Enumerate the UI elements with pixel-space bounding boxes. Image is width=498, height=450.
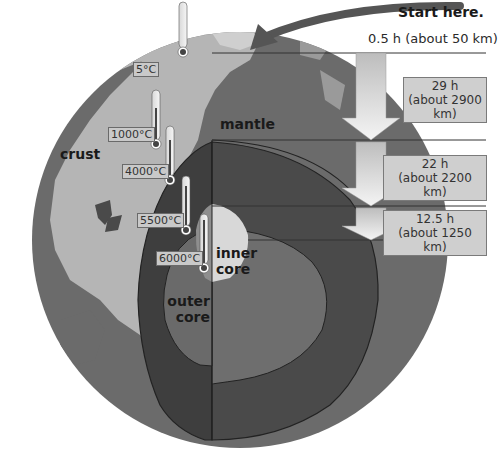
depth-leg-4-box: 12.5 h (about 1250 km) (383, 210, 487, 256)
depth-leg-2-time: 29 h (407, 79, 483, 93)
inner-core-label: inner core (216, 245, 256, 277)
temperature-label-5500: 5500°C (137, 213, 184, 228)
depth-leg-3-time: 22 h (387, 157, 483, 171)
depth-leg-1-label: 0.5 h (about 50 km) (368, 31, 498, 46)
mantle-label: mantle (220, 116, 275, 132)
depth-leg-3-box: 22 h (about 2200 km) (383, 155, 487, 201)
depth-leg-4-distance: (about 1250 km) (387, 226, 483, 254)
temperature-label-4000: 4000°C (122, 164, 169, 179)
temperature-label-5: 5°C (133, 62, 159, 77)
depth-leg-4-time: 12.5 h (387, 212, 483, 226)
outer-core-label: outer core (166, 293, 210, 325)
crust-label: crust (60, 146, 100, 162)
depth-leg-3-distance: (about 2200 km) (387, 171, 483, 199)
start-here-label: Start here. (398, 4, 484, 20)
thermometer-icon (178, 2, 188, 57)
temperature-label-1000: 1000°C (108, 127, 155, 142)
depth-leg-2-distance: (about 2900 km) (407, 93, 483, 121)
temperature-label-6000: 6000°C (156, 251, 203, 266)
depth-leg-2-box: 29 h (about 2900 km) (403, 77, 487, 123)
